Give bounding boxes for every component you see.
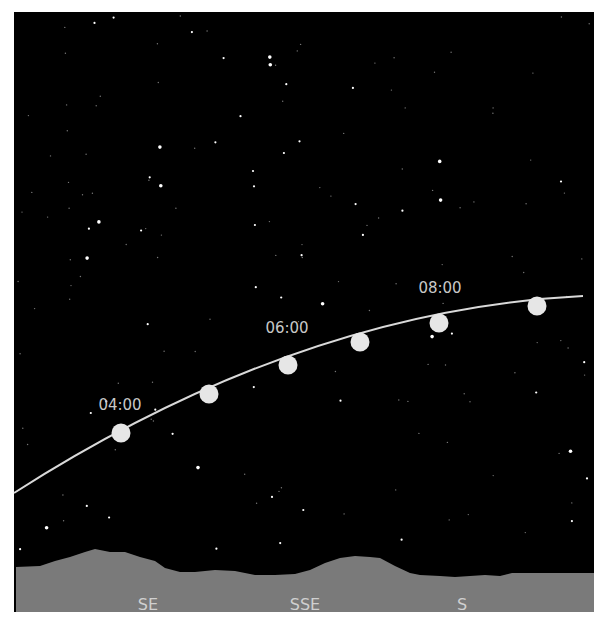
star: [268, 55, 272, 59]
star: [253, 185, 255, 187]
star: [339, 400, 341, 402]
star: [209, 319, 210, 320]
star: [586, 477, 588, 479]
star: [269, 63, 273, 67]
star: [398, 399, 399, 400]
star: [63, 520, 64, 521]
star: [302, 509, 304, 511]
star: [558, 453, 559, 454]
star: [301, 244, 302, 245]
star: [88, 228, 90, 230]
star: [85, 154, 86, 155]
star: [69, 299, 70, 300]
star: [560, 340, 561, 341]
star: [395, 489, 396, 490]
star: [447, 442, 448, 443]
star: [282, 101, 283, 102]
star: [530, 159, 531, 160]
star: [148, 180, 149, 181]
star: [256, 503, 257, 504]
star: [62, 494, 63, 495]
star: [532, 72, 533, 73]
star: [512, 256, 513, 257]
position-marker: [112, 424, 131, 443]
star: [214, 141, 216, 143]
star: [589, 23, 590, 24]
star: [157, 257, 158, 258]
star: [254, 224, 256, 226]
star: [22, 428, 23, 429]
night-sky: [14, 12, 594, 612]
star: [343, 513, 344, 514]
star: [195, 351, 196, 352]
star: [275, 65, 276, 66]
time-label: 06:00: [265, 319, 308, 337]
star: [525, 532, 526, 533]
star: [118, 383, 119, 384]
star: [355, 203, 357, 205]
star: [158, 82, 159, 83]
star: [569, 450, 573, 454]
star: [464, 393, 465, 394]
star: [31, 192, 32, 193]
star: [285, 83, 287, 85]
star: [535, 391, 537, 393]
star: [564, 192, 565, 193]
star: [321, 302, 325, 306]
star: [82, 194, 83, 195]
star: [151, 419, 152, 420]
star: [469, 401, 470, 402]
star: [172, 433, 174, 435]
star: [145, 228, 146, 229]
direction-label: S: [457, 595, 467, 614]
star: [19, 548, 21, 550]
star: [67, 130, 68, 131]
position-marker: [200, 385, 219, 404]
star: [442, 264, 443, 265]
star: [239, 115, 241, 117]
star: [86, 505, 88, 507]
star: [493, 475, 494, 476]
star: [275, 255, 276, 256]
star: [85, 256, 89, 260]
star: [430, 335, 434, 339]
star: [17, 281, 18, 282]
star: [567, 347, 568, 348]
star: [65, 53, 66, 54]
star: [338, 281, 339, 282]
star: [223, 57, 225, 59]
sky-chart: 04:0006:0008:00 SESSES: [0, 0, 608, 630]
star: [113, 17, 115, 19]
star: [70, 285, 71, 286]
star: [163, 351, 164, 352]
time-label: 08:00: [418, 279, 461, 297]
star: [459, 207, 460, 208]
star: [90, 412, 92, 414]
star: [255, 286, 257, 288]
star: [445, 364, 446, 365]
star: [418, 433, 419, 434]
star: [158, 145, 162, 149]
star: [584, 374, 585, 375]
star: [571, 520, 573, 522]
star: [97, 220, 101, 224]
star: [449, 519, 450, 520]
star: [21, 211, 22, 212]
star: [157, 43, 158, 44]
star: [215, 548, 217, 550]
position-marker: [279, 356, 298, 375]
star: [153, 420, 154, 421]
star: [66, 104, 67, 105]
star: [330, 195, 331, 196]
star: [180, 15, 181, 16]
star: [50, 155, 51, 156]
star: [175, 208, 176, 209]
star: [525, 203, 526, 204]
star: [300, 44, 301, 45]
star: [191, 31, 193, 33]
star: [451, 333, 453, 335]
star: [269, 221, 270, 222]
star: [405, 107, 406, 108]
star: [401, 539, 403, 541]
star: [161, 234, 162, 235]
